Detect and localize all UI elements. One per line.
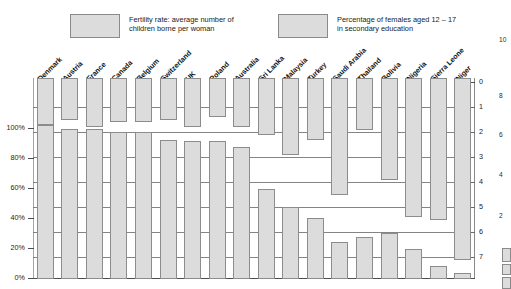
bar-fertility-rate xyxy=(381,78,398,180)
y-axis-left-tick-label: 20% xyxy=(0,243,25,252)
bar-group xyxy=(303,78,328,279)
bar-fertility-rate xyxy=(209,78,226,117)
bar-group xyxy=(328,78,353,279)
bar-secondary-education xyxy=(381,233,398,280)
y-axis-right-tick-label: 3 xyxy=(479,152,483,161)
adjacent-chart-bar xyxy=(502,277,511,289)
y-axis-left-tick-label: 80% xyxy=(0,153,25,162)
plot-area xyxy=(33,78,475,279)
bar-secondary-education xyxy=(135,132,152,279)
bar-group xyxy=(180,78,205,279)
bar-fertility-rate xyxy=(356,78,373,130)
legend-item-fertility-rate: Fertility rate: average number of childr… xyxy=(70,14,234,38)
bar-secondary-education xyxy=(110,132,127,279)
legend-label-fertility-rate: Fertility rate: average number of childr… xyxy=(129,14,234,33)
bar-group xyxy=(401,78,426,279)
y-axis-left-tick-label: 0% xyxy=(0,273,25,282)
bar-secondary-education xyxy=(233,147,250,279)
legend-swatch-fertility-rate xyxy=(70,14,120,38)
bar-fertility-rate xyxy=(307,78,324,140)
bar-secondary-education xyxy=(258,189,275,279)
bar-group xyxy=(352,78,377,279)
y-axis-right-tick-label: 6 xyxy=(479,227,483,236)
adjacent-chart-tick-label: 6 xyxy=(499,131,503,138)
bar-secondary-education xyxy=(37,125,54,280)
bar-fertility-rate xyxy=(160,78,177,120)
bar-secondary-education xyxy=(405,249,422,279)
bar-group xyxy=(156,78,181,279)
legend-item-secondary-education: Percentage of females aged 12 – 17 in se… xyxy=(278,14,456,38)
bar-fertility-rate xyxy=(37,78,54,125)
adjacent-chart-bar xyxy=(502,264,511,275)
bar-group xyxy=(205,78,230,279)
bar-fertility-rate xyxy=(454,78,471,260)
bar-fertility-rate xyxy=(405,78,422,217)
bar-group xyxy=(377,78,402,279)
adjacent-chart-tick-label: 4 xyxy=(499,171,503,178)
bar-group xyxy=(131,78,156,279)
bar-secondary-education xyxy=(356,237,373,279)
y-axis-right-tick-label: 4 xyxy=(479,177,483,186)
y-axis-right-tick-label: 1 xyxy=(479,102,483,111)
chart-root: Fertility rate: average number of childr… xyxy=(0,0,511,289)
adjacent-chart-tick-label: 2 xyxy=(499,212,503,219)
bar-group xyxy=(33,78,58,279)
y-axis-right-tick-label: 2 xyxy=(479,127,483,136)
legend-swatch-secondary-education xyxy=(278,14,328,38)
y-axis-left-tick-label: 60% xyxy=(0,183,25,192)
bar-secondary-education xyxy=(282,207,299,279)
bar-fertility-rate xyxy=(86,78,103,127)
bar-group xyxy=(58,78,83,279)
bar-fertility-rate xyxy=(135,78,152,122)
bar-fertility-rate xyxy=(110,78,127,122)
bar-secondary-education xyxy=(86,129,103,279)
bar-fertility-rate xyxy=(184,78,201,127)
y-axis-right-tick-label: 5 xyxy=(479,202,483,211)
bar-fertility-rate xyxy=(258,78,275,135)
bar-secondary-education xyxy=(61,129,78,279)
chart-legend: Fertility rate: average number of childr… xyxy=(0,8,511,40)
bar-secondary-education xyxy=(209,141,226,279)
adjacent-chart-bar xyxy=(502,248,511,262)
y-axis-left-tick-label: 100% xyxy=(0,123,25,132)
bar-secondary-education xyxy=(184,141,201,279)
bar-secondary-education xyxy=(454,273,471,279)
bar-group xyxy=(107,78,132,279)
adjacent-chart-tick-label: 10 xyxy=(499,36,506,43)
bar-group xyxy=(450,78,475,279)
y-axis-right-tick-label: 0 xyxy=(479,77,483,86)
bar-group xyxy=(426,78,451,279)
adjacent-chart-tick-label: 8 xyxy=(499,92,503,99)
y-axis-right-tick-label: 7 xyxy=(479,252,483,261)
bar-fertility-rate xyxy=(233,78,250,127)
bar-secondary-education xyxy=(160,140,177,280)
bar-group xyxy=(229,78,254,279)
bar-secondary-education xyxy=(331,242,348,280)
bar-group xyxy=(279,78,304,279)
legend-label-secondary-education: Percentage of females aged 12 – 17 in se… xyxy=(337,14,456,33)
bar-fertility-rate xyxy=(61,78,78,120)
bar-group xyxy=(254,78,279,279)
bar-fertility-rate xyxy=(430,78,447,220)
bar-group xyxy=(82,78,107,279)
bar-fertility-rate xyxy=(282,78,299,155)
bar-fertility-rate xyxy=(331,78,348,195)
bar-secondary-education xyxy=(430,266,447,280)
y-axis-left-tick-label: 40% xyxy=(0,213,25,222)
bar-secondary-education xyxy=(307,218,324,280)
